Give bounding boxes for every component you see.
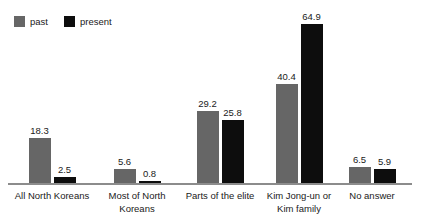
value-label-present-0: 2.5	[58, 165, 71, 175]
category-label-0: All North Koreans	[15, 190, 89, 203]
category-label-1: Most of North Koreans	[108, 190, 165, 215]
bar-present-4	[374, 169, 396, 183]
value-label-past-3: 40.4	[277, 72, 296, 82]
value-label-present-4: 5.9	[378, 157, 391, 167]
plot-area: 18.32.5All North Koreans5.60.8Most of No…	[0, 0, 421, 221]
value-label-present-3: 64.9	[302, 12, 321, 22]
bar-present-3	[301, 24, 323, 183]
bar-present-0	[54, 177, 76, 183]
category-label-2: Parts of the elite	[186, 190, 255, 203]
value-label-past-0: 18.3	[30, 126, 49, 136]
bar-past-4	[349, 167, 371, 183]
bar-past-3	[276, 84, 298, 183]
bar-present-2	[222, 120, 244, 183]
category-label-4: No answer	[349, 190, 394, 203]
bar-present-1	[139, 181, 161, 183]
bar-chart: past present 18.32.5All North Koreans5.6…	[0, 0, 421, 221]
category-label-3: Kim Jong-un or Kim family	[267, 190, 331, 215]
value-label-present-1: 0.8	[143, 169, 156, 179]
value-label-past-1: 5.6	[118, 157, 131, 167]
value-label-past-4: 6.5	[353, 155, 366, 165]
bar-past-0	[29, 138, 51, 183]
value-label-past-2: 29.2	[198, 99, 217, 109]
x-axis-baseline	[8, 183, 412, 185]
bar-past-1	[114, 169, 136, 183]
value-label-present-2: 25.8	[223, 108, 242, 118]
bar-past-2	[197, 111, 219, 183]
